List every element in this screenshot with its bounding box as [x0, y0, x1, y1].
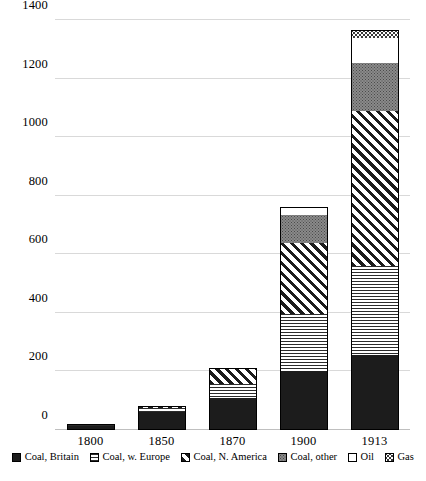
bar-segment[interactable] [138, 408, 186, 412]
x-axis-tick-label: 1870 [197, 434, 268, 449]
bar-segment[interactable] [351, 111, 399, 266]
legend-label: Coal, other [290, 452, 337, 463]
legend-swatch-icon [348, 453, 357, 462]
y-axis-tick-label: 1200 [22, 56, 48, 71]
bar-1913[interactable] [351, 30, 399, 430]
y-axis-tick-label: 400 [29, 290, 48, 305]
x-axis-tick-label: 1850 [126, 434, 197, 449]
bar-segment[interactable] [67, 425, 115, 426]
legend-swatch-icon [12, 453, 21, 462]
bar-segment[interactable] [280, 215, 328, 243]
legend-label: Coal, w. Europe [102, 452, 170, 463]
legend-item[interactable]: Coal, w. Europe [90, 452, 170, 463]
bar-1850[interactable] [138, 406, 186, 430]
legend-swatch-icon [90, 453, 99, 462]
bar-segment[interactable] [280, 371, 328, 430]
bar-1800[interactable] [67, 424, 115, 430]
bar-segment[interactable] [280, 314, 328, 371]
y-axis-tick-label: 200 [29, 349, 48, 364]
bar-segment[interactable] [209, 368, 257, 384]
y-axis-tick-label: 0 [42, 408, 48, 423]
bar-segment[interactable] [280, 207, 328, 214]
bar-segment[interactable] [138, 412, 186, 430]
bar-series-group [55, 20, 410, 430]
plot-area: 0200400600800100012001400 [55, 20, 410, 430]
x-axis-tick-label: 1913 [339, 434, 410, 449]
legend-swatch-icon [385, 453, 394, 462]
legend-label: Oil [361, 452, 374, 463]
y-axis-tick-label: 600 [29, 232, 48, 247]
legend-swatch-icon [181, 453, 190, 462]
legend-swatch-icon [278, 453, 287, 462]
bar-segment[interactable] [351, 30, 399, 37]
legend-label: Gas [398, 452, 414, 463]
legend-item[interactable]: Oil [348, 452, 374, 463]
y-axis-tick-label: 800 [29, 173, 48, 188]
bar-segment[interactable] [351, 266, 399, 355]
bar-segment[interactable] [351, 355, 399, 430]
legend-label: Coal, Britain [25, 452, 79, 463]
bar-segment[interactable] [209, 384, 257, 398]
bar-segment[interactable] [138, 406, 186, 408]
y-axis-tick-label: 1400 [22, 0, 48, 13]
stacked-bar-chart: 0200400600800100012001400 18001850187019… [0, 0, 426, 481]
chart-legend: Coal, BritainCoal, w. EuropeCoal, N. Ame… [0, 452, 426, 463]
y-axis-tick-label: 1000 [22, 115, 48, 130]
bar-segment[interactable] [351, 38, 399, 63]
bar-segment[interactable] [67, 424, 115, 425]
bar-segment[interactable] [280, 243, 328, 315]
legend-item[interactable]: Gas [385, 452, 414, 463]
legend-item[interactable]: Coal, other [278, 452, 337, 463]
bar-segment[interactable] [209, 398, 257, 430]
x-axis-tick-label: 1900 [268, 434, 339, 449]
legend-label: Coal, N. America [193, 452, 266, 463]
bar-1870[interactable] [209, 368, 257, 430]
legend-item[interactable]: Coal, N. America [181, 452, 267, 463]
x-axis-tick-label: 1800 [55, 434, 126, 449]
bar-1900[interactable] [280, 207, 328, 430]
legend-item[interactable]: Coal, Britain [12, 452, 79, 463]
bar-segment[interactable] [351, 63, 399, 111]
bar-segment[interactable] [67, 426, 115, 430]
